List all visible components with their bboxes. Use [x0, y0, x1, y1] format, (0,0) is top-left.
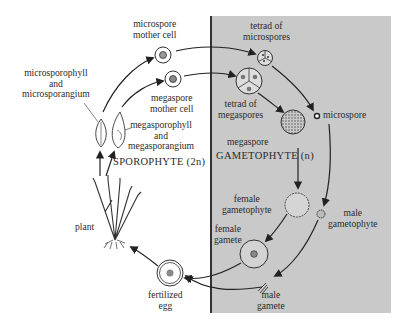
arrow-to-microspore-mother-cell — [103, 58, 153, 112]
microspore-icon — [315, 114, 320, 119]
megaspore-mother-cell-icon — [165, 71, 181, 87]
microsporophyll-leader-line — [84, 103, 98, 122]
label-female-gametophyte: female gametophyte — [222, 194, 272, 215]
label-fertilized-egg: fertilized egg — [148, 290, 183, 311]
label-sporophyte-phase: SPOROPHYTE (2n) — [113, 157, 205, 168]
label-gametophyte-phase: GAMETOPHYTE (n) — [216, 151, 314, 162]
female-gametophyte-icon — [285, 193, 309, 217]
label-male-gametophyte: male gametophyte — [328, 208, 378, 229]
label-tetrad-megaspores: tetrad of megaspores — [218, 99, 263, 120]
tetrad-of-megaspores-icon — [236, 68, 262, 94]
fertilized-egg-icon — [157, 260, 183, 286]
label-tetrad-microspores: tetrad of microspores — [243, 21, 290, 42]
arrow-to-tetrad-microspores — [176, 47, 255, 54]
male-gametophyte-icon — [317, 210, 325, 218]
arrow-female-gamete-to-egg — [185, 263, 241, 278]
label-female-gamete: female gamete — [214, 224, 242, 245]
arrow-to-female-gamete — [266, 214, 287, 241]
megaspore-icon — [281, 110, 305, 134]
arrow-egg-to-plant — [131, 247, 158, 266]
label-plant: plant — [75, 222, 94, 233]
arrow-to-male-gamete — [275, 220, 318, 276]
label-microspore-mother-cell: microspore mother cell — [133, 19, 176, 40]
microsporophyll-icon — [96, 119, 107, 147]
arrow-to-microspore — [272, 66, 313, 110]
female-gamete-icon — [240, 240, 268, 268]
label-male-gamete: male gamete — [257, 290, 285, 311]
megasporophyll-icon — [112, 112, 125, 148]
label-megasporophyll: megasporophyll and megasporangium — [128, 120, 194, 152]
label-microspore: microspore — [323, 110, 366, 121]
label-microsporophyll: microsporophyll and microsporangium — [22, 68, 90, 100]
arrow-to-male-gametophyte — [324, 124, 330, 205]
plant-icon — [93, 175, 141, 249]
tetrad-of-microspores-icon — [258, 51, 273, 66]
microspore-mother-cell-icon — [155, 47, 171, 63]
arrow-to-tetrad-megaspores — [184, 73, 235, 76]
label-megaspore-mother-cell: megaspore mother cell — [150, 93, 193, 114]
label-megaspore: megaspore — [227, 137, 269, 148]
